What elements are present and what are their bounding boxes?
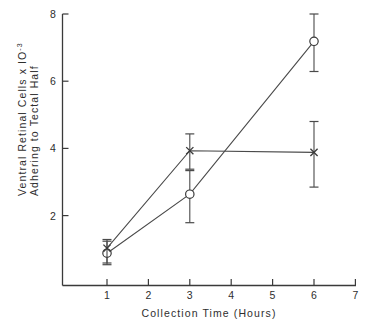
x-tick-label-2: 2 <box>145 289 151 301</box>
x-tick-label-7: 7 <box>352 289 358 301</box>
x-tick-label-6: 6 <box>311 289 317 301</box>
cross-errorbar-6 <box>310 122 319 188</box>
x-tick-labels-group: 1 2 3 4 5 6 7 <box>104 289 358 301</box>
y-tick-label-8: 8 <box>50 8 56 20</box>
x-tick-label-3: 3 <box>187 289 193 301</box>
open-circle-connector <box>107 41 314 253</box>
series-cross <box>103 122 319 264</box>
x-tick-label-4: 4 <box>228 289 234 301</box>
y-tick-label-6: 6 <box>50 75 56 87</box>
x-tick-label-1: 1 <box>104 289 110 301</box>
x-ticks-group <box>107 279 355 286</box>
y-axis-title-line2: Adhering to Tectal Half <box>28 65 40 196</box>
y-axis-title-group: Ventral Retinal Cells x IO-3 Adhering to… <box>16 42 40 196</box>
series-open-circle <box>103 14 319 265</box>
data-point-open-circle-3 <box>186 190 194 198</box>
data-point-open-circle-6 <box>310 37 318 45</box>
cross-connector <box>107 151 314 249</box>
chart-figure: 8 6 4 2 1 2 3 4 5 6 7 <box>0 0 371 322</box>
y-ticks-group <box>63 14 69 216</box>
y-tick-labels-group: 8 6 4 2 <box>50 8 56 222</box>
x-tick-label-5: 5 <box>270 289 276 301</box>
y-axis-title-line1: Ventral Retinal Cells x IO-3 <box>16 42 28 196</box>
y-axis-title-superscript: -3 <box>16 42 23 50</box>
line-chart-plot: 8 6 4 2 1 2 3 4 5 6 7 <box>0 0 371 322</box>
y-tick-label-2: 2 <box>50 210 56 222</box>
x-axis-title: Collection Time (Hours) <box>142 307 277 319</box>
y-tick-label-4: 4 <box>50 142 56 154</box>
y-axis-title-line1-text: Ventral Retinal Cells x IO <box>16 51 28 196</box>
